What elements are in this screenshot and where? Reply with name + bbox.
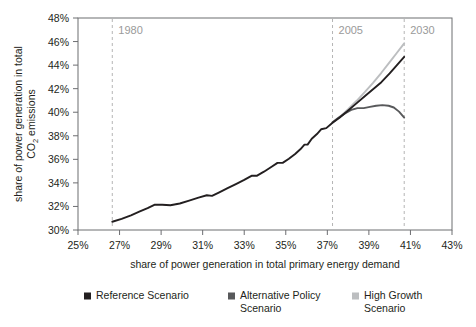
series-line-high-growth-scenario	[333, 43, 405, 123]
legend-label-line1: Reference Scenario	[96, 289, 189, 301]
legend-swatch	[84, 293, 91, 300]
y-tick-label: 32%	[48, 200, 69, 212]
plot-frame	[78, 18, 452, 230]
legend-label-line2: Scenario	[364, 302, 406, 314]
plot-border	[78, 18, 452, 230]
y-tick-label: 40%	[48, 106, 69, 118]
year-annotations: 198020052030	[112, 19, 434, 229]
x-axis-tick-labels: 25%27%29%31%33%35%37%39%41%43%	[67, 239, 462, 251]
y-tick-label: 46%	[48, 36, 69, 48]
chart-figure: 25%27%29%31%33%35%37%39%41%43% 30%32%34%…	[0, 0, 476, 327]
legend-label-line1: Alternative Policy	[240, 289, 321, 301]
y-tick-label: 34%	[48, 177, 69, 189]
y-tick-label: 44%	[48, 59, 69, 71]
data-series-group	[112, 43, 404, 221]
x-tick-label: 27%	[109, 239, 130, 251]
x-axis-ticks	[78, 230, 452, 235]
y-tick-label: 38%	[48, 130, 69, 142]
co2-power-generation-share-line-chart: 25%27%29%31%33%35%37%39%41%43% 30%32%34%…	[0, 0, 476, 327]
x-tick-label: 39%	[358, 239, 379, 251]
chart-legend: Reference ScenarioAlternative PolicyScen…	[84, 289, 423, 314]
legend-swatch	[228, 293, 235, 300]
y-axis-title: share of power generation in total CO2 e…	[12, 46, 40, 202]
x-tick-label: 41%	[400, 239, 421, 251]
y-axis-title-line1: share of power generation in total	[12, 46, 24, 202]
year-label-1980: 1980	[118, 24, 142, 36]
y-tick-label: 48%	[48, 12, 69, 24]
x-tick-label: 31%	[192, 239, 213, 251]
y-axis-title-co2-text: CO	[25, 143, 37, 159]
y-axis-title-line2: CO2 emissions	[25, 89, 40, 159]
x-tick-label: 25%	[67, 239, 88, 251]
year-label-2030: 2030	[410, 24, 434, 36]
y-tick-label: 30%	[48, 224, 69, 236]
y-tick-label: 42%	[48, 83, 69, 95]
series-line-reference-scenario	[112, 57, 404, 222]
x-axis-title: share of power generation in total prima…	[130, 258, 400, 270]
legend-item-alternative-policy: Alternative PolicyScenario	[228, 289, 321, 314]
x-tick-label: 37%	[317, 239, 338, 251]
y-axis-ticks	[73, 18, 78, 230]
y-tick-label: 36%	[48, 153, 69, 165]
y-axis-title-emissions-text: emissions	[25, 89, 37, 139]
legend-label-line2: Scenario	[240, 302, 282, 314]
x-tick-label: 43%	[441, 239, 462, 251]
year-label-2005: 2005	[339, 24, 363, 36]
x-tick-label: 33%	[234, 239, 255, 251]
y-axis-tick-labels: 30%32%34%36%38%40%42%44%46%48%	[48, 12, 69, 236]
legend-item-reference-scenario: Reference Scenario	[84, 289, 189, 301]
legend-swatch	[352, 293, 359, 300]
x-tick-label: 29%	[151, 239, 172, 251]
legend-label-line1: High Growth	[364, 289, 423, 301]
legend-item-high-growth: High GrowthScenario	[352, 289, 423, 314]
x-tick-label: 35%	[275, 239, 296, 251]
